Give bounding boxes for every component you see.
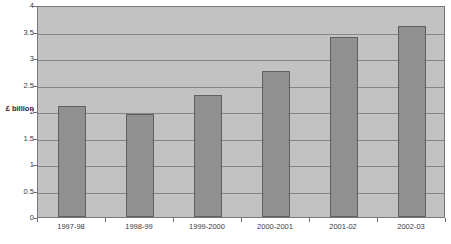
x-axis-tick-mark	[37, 218, 38, 222]
gridline	[38, 34, 444, 35]
y-axis-tick-label: 0	[2, 214, 34, 222]
x-axis-tick-label: 2000-2001	[241, 222, 309, 232]
gridline	[38, 166, 444, 167]
bar	[262, 71, 290, 217]
x-axis-tick-mark	[173, 218, 174, 222]
y-axis-title: £ billion	[0, 104, 34, 113]
y-axis-tick-label: 1	[2, 161, 34, 169]
x-axis-tick-label: 2001-02	[309, 222, 377, 232]
x-axis-tick-mark	[309, 218, 310, 222]
x-axis-tick-mark	[105, 218, 106, 222]
y-axis-tick-label: 2.5	[2, 82, 34, 90]
x-axis-tick-mark	[377, 218, 378, 222]
bar	[330, 37, 358, 217]
plot-area	[37, 6, 445, 218]
bar	[194, 95, 222, 217]
y-axis-tick-labels: 00.511.522.533.54	[0, 0, 34, 244]
gridline	[38, 113, 444, 114]
gridline	[38, 87, 444, 88]
y-axis-tick-label: 3	[2, 55, 34, 63]
x-axis-tick-mark	[241, 218, 242, 222]
x-axis-tick-label: 2002-03	[377, 222, 445, 232]
x-axis-tick-label: 1997-98	[37, 222, 105, 232]
y-axis-tick-label: 4	[2, 2, 34, 10]
bar	[398, 26, 426, 217]
gridline	[38, 140, 444, 141]
chart-title	[0, 0, 451, 2]
y-axis-tick-label: 1.5	[2, 135, 34, 143]
bar	[58, 106, 86, 217]
bar-chart: 00.511.522.533.54 £ billion 1997-981998-…	[0, 0, 451, 244]
gridline	[38, 60, 444, 61]
y-axis-tick-label: 0.5	[2, 188, 34, 196]
gridline	[38, 193, 444, 194]
y-axis-tick-label: 3.5	[2, 29, 34, 37]
x-axis-tick-label: 1999-2000	[173, 222, 241, 232]
x-axis-tick-label: 1998-99	[105, 222, 173, 232]
x-axis-tick-mark	[445, 218, 446, 222]
bar	[126, 114, 154, 217]
x-axis-tick-labels: 1997-981998-991999-20002000-20012001-022…	[37, 222, 445, 236]
